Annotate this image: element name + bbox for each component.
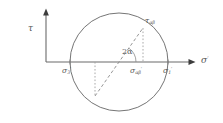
tau-alpha-beta-label: ταβ xyxy=(145,17,155,25)
mohr-circle-canvas xyxy=(0,0,223,123)
tau-axis-label: τ xyxy=(28,24,33,33)
sigma-prime-axis-prime: ′ xyxy=(207,55,208,62)
sigma3-prime-label: σ3′ xyxy=(62,67,71,75)
sigma-alpha-beta-prime-label: σαβ′ xyxy=(130,67,142,75)
sigma-alpha-beta-prime-prime: ′ xyxy=(141,66,142,72)
sigma3-prime-prime: ′ xyxy=(70,66,71,72)
horizontal-axis xyxy=(46,59,196,65)
vertical-axis-arrowhead xyxy=(43,9,49,16)
mohr-circle-figure: τ σ′ ταβ σ3′ σαβ′ σ1′ 2α xyxy=(0,0,223,123)
horizontal-axis-arrowhead xyxy=(189,59,196,65)
sigma1-prime-prime: ′ xyxy=(171,66,172,72)
sigma-prime-axis-label: σ′ xyxy=(201,56,209,65)
vertical-axis xyxy=(43,9,49,63)
sigma1-prime-label: σ1′ xyxy=(163,67,172,75)
tau-alpha-beta-subscript: αβ xyxy=(149,20,155,25)
angle-2alpha-label: 2α xyxy=(122,48,133,56)
